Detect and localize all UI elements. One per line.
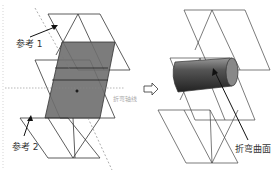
- ref1-label: 参考 1: [16, 37, 43, 50]
- right-arrow-icon: [144, 83, 158, 95]
- bend-surface-label: 折弯曲面: [235, 142, 271, 155]
- axis-label: 折弯轴线: [113, 94, 137, 103]
- right-figure: [158, 10, 270, 163]
- ref2-label: 参考 2: [12, 140, 39, 153]
